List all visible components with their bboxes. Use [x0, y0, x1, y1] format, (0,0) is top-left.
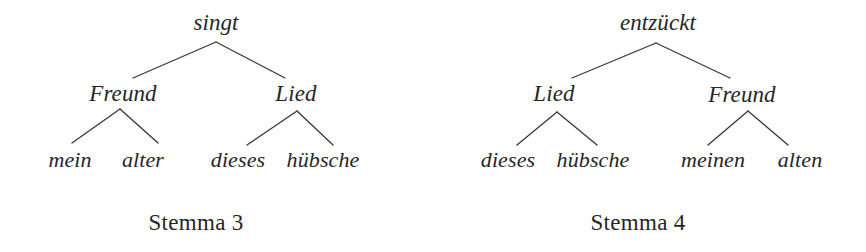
tree-node-leaf: hübsche: [557, 149, 630, 171]
tree-node-root: singt: [193, 11, 238, 34]
tree-edge: [247, 111, 297, 145]
tree-edges-layer: [0, 0, 866, 252]
tree-edge: [216, 42, 285, 78]
tree-edge: [708, 111, 748, 145]
stemma-caption: Stemma 4: [590, 211, 685, 234]
tree-node-leaf: alter: [122, 149, 164, 171]
tree-edge: [517, 112, 557, 145]
tree-node-branch: Lied: [533, 82, 574, 105]
tree-node-leaf: mein: [48, 149, 91, 171]
tree-edge: [572, 43, 656, 78]
tree-node-branch: Lied: [275, 82, 316, 105]
tree-node-leaf: hübsche: [287, 149, 360, 171]
tree-node-leaf: alten: [778, 149, 823, 171]
tree-node-root: entzückt: [620, 11, 696, 34]
tree-edge: [656, 43, 730, 78]
stemma-caption: Stemma 3: [148, 211, 243, 234]
tree-node-leaf: dieses: [481, 149, 535, 171]
tree-node-leaf: meinen: [681, 149, 745, 171]
tree-edge: [72, 109, 120, 143]
tree-node-branch: Freund: [89, 82, 156, 105]
tree-edge: [120, 109, 158, 143]
tree-edge: [748, 111, 788, 145]
tree-node-leaf: dieses: [211, 149, 265, 171]
tree-edge: [557, 112, 597, 145]
tree-edge: [297, 111, 333, 145]
tree-edge: [133, 42, 216, 78]
tree-node-branch: Freund: [708, 83, 775, 106]
stemma-figure: singtFreundLiedmeinalterdieseshübscheSte…: [0, 0, 866, 252]
